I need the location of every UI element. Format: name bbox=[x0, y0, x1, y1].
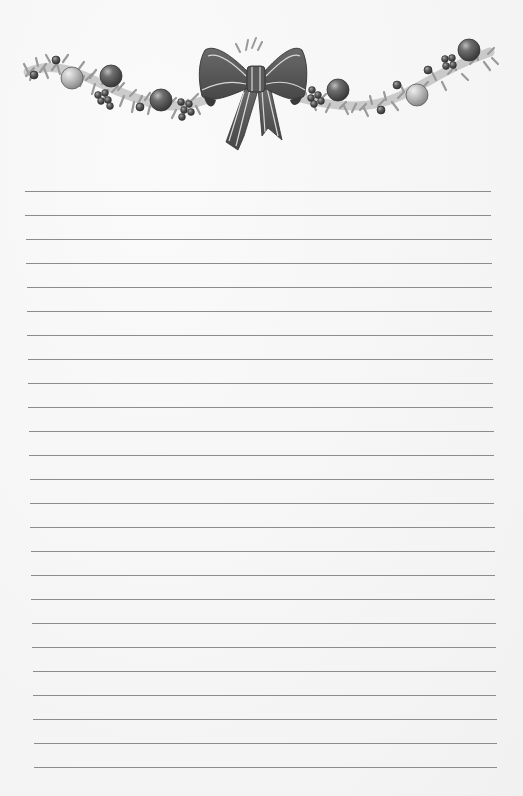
ruled-line bbox=[26, 263, 492, 264]
ruled-line bbox=[31, 575, 495, 576]
ruled-line bbox=[25, 191, 491, 192]
ruled-line bbox=[25, 215, 491, 216]
ruled-line bbox=[30, 527, 494, 528]
ruled-line bbox=[31, 551, 495, 552]
ruled-line bbox=[32, 647, 496, 648]
ruled-line bbox=[30, 479, 495, 480]
ruled-line bbox=[30, 503, 494, 504]
ruled-line bbox=[34, 767, 497, 768]
ruled-line bbox=[27, 311, 492, 312]
ruled-line bbox=[28, 383, 493, 384]
ruled-line bbox=[28, 359, 493, 360]
stationery-page bbox=[0, 0, 523, 796]
ruled-line bbox=[28, 407, 493, 408]
ruled-line bbox=[34, 743, 497, 744]
ruled-line bbox=[27, 335, 492, 336]
ruled-line bbox=[33, 695, 496, 696]
ruled-writing-lines bbox=[0, 0, 523, 796]
ruled-line bbox=[29, 431, 494, 432]
ruled-line bbox=[33, 719, 496, 720]
ruled-line bbox=[33, 671, 497, 672]
ruled-line bbox=[31, 599, 495, 600]
ruled-line bbox=[32, 623, 496, 624]
ruled-line bbox=[27, 287, 493, 288]
ruled-line bbox=[26, 239, 492, 240]
ruled-line bbox=[29, 455, 494, 456]
